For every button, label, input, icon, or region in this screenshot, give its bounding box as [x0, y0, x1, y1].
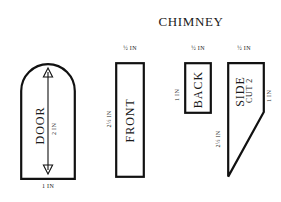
side-right-height-dimension: 1 IN	[266, 83, 272, 109]
front-height-dimension: 2½ IN	[106, 105, 112, 133]
door-height-dimension: 2 IN	[51, 116, 57, 142]
front-width-dimension: ½ IN	[111, 45, 149, 51]
door-label: DOOR	[33, 103, 48, 149]
door-width-dimension: 1 IN	[29, 183, 67, 189]
back-height-dimension: 1 IN	[174, 82, 180, 108]
side-cut-note: CUT 2	[245, 72, 254, 110]
side-width-dimension: ½ IN	[225, 45, 263, 51]
back-width-dimension: ½ IN	[179, 45, 217, 51]
back-label: BACK	[191, 69, 206, 111]
chimney-pattern-diagram: CHIMNEY DOOR 2 IN 1 IN FRONT ½ IN 2½ IN …	[0, 0, 281, 202]
front-label: FRONT	[123, 99, 138, 143]
page-title: CHIMNEY	[148, 14, 234, 30]
side-left-height-dimension: 2½ IN	[215, 125, 221, 153]
